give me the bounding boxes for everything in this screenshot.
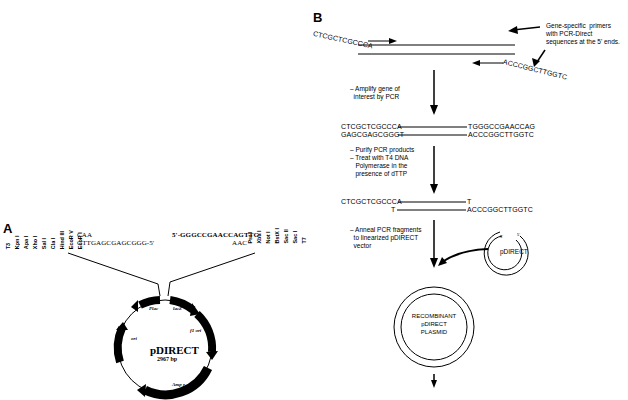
panel-b-label: B [313,10,322,25]
site-label: Cla I [50,230,56,249]
vector-end-5prime: 5' [517,232,520,237]
vector-label: pDIRECT [500,248,528,255]
t4-top-right: T [467,198,471,205]
feature-ori: ori [131,336,137,341]
right-restriction-sites: Pst I Xba I Not I BstX I Sac II Sac I T7 [247,228,307,244]
site-label: Xba I [256,228,262,244]
left-seq-top: CAA [77,231,92,239]
step-purify-treat: – Purify PCR products – Treat with T4 DN… [350,146,414,178]
site-label: Sac I [292,228,298,244]
recombinant-line: RECOMBINANT [404,312,464,320]
site-label: Pst I [247,228,253,244]
pcr-top-right: TGGGCCGAACCAG [468,123,535,130]
site-label: Kpn I [14,230,20,249]
right-seq-bottom: AAC [232,239,247,247]
feature-amp: Amp r [172,382,185,387]
right-seq-top: 5'-GGGCCGAACCAGTTG [172,231,259,239]
site-label: T3 [5,230,11,249]
feature-lacz: lacZ [173,306,182,311]
t4-bot-left: T [391,206,395,213]
recombinant-plasmid-label: RECOMBINANT pDIRECT PLASMID [404,312,464,336]
site-label: Apa I [23,230,29,249]
plasmid-size: 2967 bp [157,356,177,362]
t4-top-left: CTCGCTCGCCCA [341,198,402,205]
site-label: Not I [265,228,271,244]
pcr-bot-left: GAGCGAGCGGGT [341,131,404,138]
feature-f1-ori: f1 ori [190,328,201,333]
recombinant-line: pDIRECT [404,320,464,328]
site-label: Sac II [283,228,289,244]
left-seq-bottom: GTTGAGCGAGCGGG-5' [77,239,154,247]
site-label: Sal I [41,230,47,249]
pcr-bot-right: ACCCGGCTTGGTC [468,131,534,138]
site-label: T7 [301,228,307,244]
site-label: Hind III [59,230,65,249]
site-label: EcoR V [68,230,74,249]
site-label: BstX I [274,228,280,244]
left-restriction-sites: T3 Kpn I Apa I Xho I Sal I Cla I Hind II… [5,230,83,249]
site-label: Xho I [32,230,38,249]
plasmid-name: pDIRECT [150,344,199,356]
pcr-top-left: CTCGCTCGCCCA [341,123,402,130]
recombinant-line: PLASMID [404,328,464,336]
vector-end-5prime: 5' [500,234,503,239]
t4-bot-right: ACCCGGCTTGGTC [467,206,533,213]
primer-note: Gene-specific primers with PCR-Direct se… [546,22,620,46]
diagram-graphics [0,0,628,400]
step-anneal: – Anneal PCR fragments to linearized pDI… [350,226,422,250]
step-amplify: – Amplify gene of interest by PCR [350,85,400,101]
feature-plac: Plac [149,306,158,311]
